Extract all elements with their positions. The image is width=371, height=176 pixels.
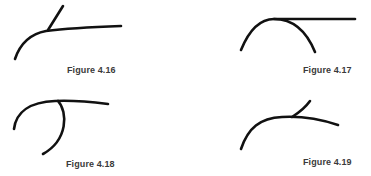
figure-4-16-drawing: [15, 6, 121, 59]
figure-4-16-branch-stroke: [48, 6, 63, 30]
figure-4-19-caption: Figure 4.19: [303, 157, 352, 167]
figure-4-18-hanging-curve: [43, 101, 64, 154]
figure-4-16-caption: Figure 4.16: [67, 65, 116, 75]
figure-4-17-arc: [241, 19, 315, 52]
figure-4-16-main-curve: [15, 26, 121, 59]
figure-4-17-caption: Figure 4.17: [303, 65, 352, 75]
figure-4-18-caption: Figure 4.18: [66, 159, 115, 169]
figure-4-19-main-curve: [241, 117, 338, 149]
figure-4-19-drawing: [241, 101, 338, 149]
figure-4-18-drawing: [14, 101, 108, 154]
figures-canvas: [0, 0, 371, 176]
figure-4-17-drawing: [241, 19, 355, 52]
figure-4-19-branch-stroke: [292, 101, 310, 117]
